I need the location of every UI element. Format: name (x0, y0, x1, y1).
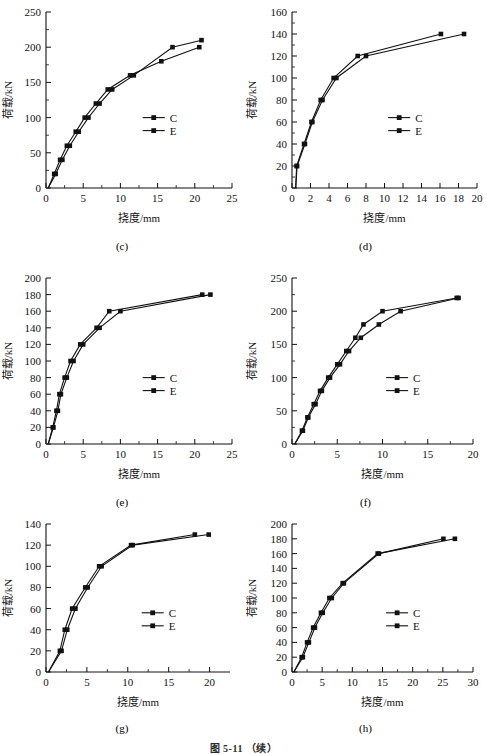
y-axis-title: 荷载/kN (246, 342, 258, 381)
y-tick-label: 140 (271, 562, 288, 574)
legend-label-C: C (415, 112, 422, 124)
data-point-C (439, 32, 444, 37)
data-point-E (398, 309, 403, 314)
chart-svg: 0510152025020406080100120140160180200CE挠… (0, 260, 244, 496)
data-point-E (56, 409, 61, 414)
data-point-E (131, 73, 136, 78)
data-point-C (353, 335, 358, 340)
data-point-E (313, 625, 318, 630)
x-tick-label: 30 (468, 676, 480, 688)
y-tick-label: 150 (271, 338, 288, 350)
data-point-E (59, 649, 64, 654)
chart-h: 051015202530020406080100120140160180200C… (244, 510, 487, 722)
series-line-E (48, 295, 210, 444)
y-tick-label: 60 (276, 116, 288, 128)
data-point-C (380, 309, 385, 314)
data-point-E (342, 581, 347, 586)
legend-marker-C (151, 375, 156, 380)
series-line-C (294, 539, 455, 672)
x-axis-title: 挠度/mm (118, 211, 161, 224)
y-tick-label: 100 (271, 372, 288, 384)
y-tick-label: 120 (25, 539, 42, 551)
y-tick-label: 0 (36, 438, 42, 450)
legend-label-C: C (169, 607, 176, 619)
y-tick-label: 200 (25, 272, 42, 284)
chart-panel-f: 05101520050100150200250CE挠度/mm荷载/kN (f) (244, 260, 487, 515)
y-tick-label: 60 (30, 603, 42, 615)
y-tick-label: 50 (276, 405, 288, 417)
y-tick-label: 180 (271, 533, 288, 545)
legend-label-E: E (170, 385, 177, 397)
x-tick-label: 0 (43, 448, 49, 460)
x-tick-label: 10 (377, 448, 389, 460)
series-line-C (48, 535, 194, 672)
x-tick-label: 15 (422, 448, 434, 460)
panel-label-e: (e) (0, 496, 244, 508)
chart-svg: 02468101214161820020406080100120140160CE… (244, 0, 487, 240)
panel-label-c: (c) (0, 240, 244, 252)
x-tick-label: 5 (335, 448, 341, 460)
x-tick-label: 10 (379, 192, 391, 204)
x-tick-label: 0 (289, 448, 295, 460)
x-tick-label: 18 (453, 192, 465, 204)
data-point-E (330, 596, 335, 601)
y-axis-title: 荷载/kN (2, 81, 14, 120)
chart-svg: 05101520050100150200250CE挠度/mm荷载/kN (244, 260, 487, 496)
x-tick-label: 10 (347, 676, 359, 688)
chart-panel-e: 0510152025020406080100120140160180200CE挠… (0, 260, 244, 515)
data-point-E (377, 551, 382, 556)
legend-marker-C (397, 115, 402, 120)
data-point-E (313, 402, 318, 407)
data-point-E (71, 359, 76, 364)
y-tick-label: 200 (271, 518, 288, 530)
x-tick-label: 20 (204, 676, 216, 688)
x-tick-label: 14 (416, 192, 428, 204)
data-point-C (361, 322, 366, 327)
series-line-E (48, 535, 208, 672)
y-tick-label: 60 (276, 622, 288, 634)
x-tick-label: 15 (163, 676, 175, 688)
panel-label-h: (h) (244, 722, 487, 734)
data-point-E (307, 640, 312, 645)
data-point-E (97, 326, 102, 331)
data-point-E (301, 428, 306, 433)
x-tick-label: 15 (152, 192, 164, 204)
y-tick-label: 120 (25, 338, 42, 350)
data-point-E (65, 375, 70, 380)
x-axis-title: 挠度/mm (363, 211, 406, 224)
x-tick-label: 2 (308, 192, 314, 204)
data-point-E (99, 564, 104, 569)
data-point-E (456, 296, 461, 301)
data-point-E (73, 606, 78, 611)
y-tick-label: 200 (271, 305, 288, 317)
x-tick-label: 25 (227, 448, 239, 460)
data-point-E (208, 292, 213, 297)
legend-marker-C (395, 375, 400, 380)
legend-marker-C (151, 115, 156, 120)
x-tick-label: 20 (189, 448, 201, 460)
figure-panel-grid: 0510152025050100150200250CE挠度/mm荷载/kN (c… (0, 0, 487, 754)
data-point-C (105, 87, 110, 92)
data-point-E (86, 115, 91, 120)
legend-marker-E (151, 128, 156, 133)
y-tick-label: 0 (36, 182, 42, 194)
y-tick-label: 160 (271, 6, 288, 18)
legend-label-E: E (413, 385, 420, 397)
chart-panel-g: 05101520020406080100120140CE挠度/mm荷载/kN (… (0, 510, 244, 740)
data-point-E (53, 172, 58, 177)
x-axis-title: 挠度/mm (361, 467, 404, 480)
y-tick-label: 140 (25, 322, 42, 334)
legend-label-C: C (413, 607, 420, 619)
data-point-E (303, 142, 308, 147)
chart-panel-c: 0510152025050100150200250CE挠度/mm荷载/kN (c… (0, 0, 244, 260)
legend-marker-C (150, 610, 155, 615)
data-point-E (68, 143, 73, 148)
x-tick-label: 10 (122, 676, 134, 688)
y-tick-label: 200 (25, 41, 42, 53)
y-axis-title: 荷载/kN (246, 579, 258, 618)
x-tick-label: 8 (363, 192, 369, 204)
legend-marker-C (395, 610, 400, 615)
y-axis-title: 荷载/kN (2, 579, 14, 618)
chart-d: 02468101214161820020406080100120140160CE… (244, 0, 487, 240)
x-tick-label: 10 (115, 448, 127, 460)
